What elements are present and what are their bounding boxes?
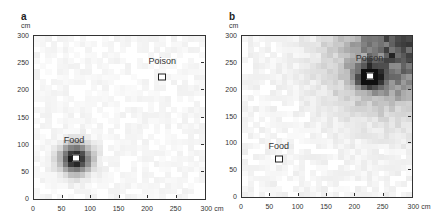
tick-mark (354, 193, 355, 196)
heatmap-cell (199, 63, 205, 69)
heatmap-cell (248, 95, 254, 101)
heatmap-cell (142, 123, 148, 129)
heatmap-cell (114, 161, 120, 167)
heatmap-cell (45, 112, 51, 118)
tick-mark (201, 62, 204, 63)
heatmap-cell (406, 90, 412, 96)
x-tick-label: 0 (239, 203, 243, 210)
heatmap-cell (114, 74, 120, 80)
y-tick-label: 300 (9, 32, 29, 39)
heatmap-cell (406, 68, 412, 74)
heatmap-cell (406, 106, 412, 112)
heatmap-cell (125, 63, 131, 69)
heatmap-cell (199, 128, 205, 134)
x-tick-label: 300 cm (201, 205, 224, 212)
heatmap-cell (177, 96, 183, 102)
heatmap-cell (188, 188, 194, 194)
heatmap-cell (199, 74, 205, 80)
heatmap-cell (282, 192, 288, 198)
tick-mark (201, 144, 204, 145)
heatmap-cell (108, 172, 114, 178)
heatmap-cell (159, 194, 165, 200)
heatmap-cell (165, 96, 171, 102)
heatmap-cell (199, 52, 205, 58)
x-tick-label: 100 (84, 205, 96, 212)
heatmap-cell (406, 41, 412, 47)
y-tick-label: 150 (217, 112, 237, 119)
heatmap-cell (406, 192, 412, 198)
heatmap-cell (199, 134, 205, 140)
heatmap-cell (253, 143, 259, 149)
heatmap-cell (248, 181, 254, 187)
heatmap-cell (148, 101, 154, 107)
y-tick-label: 100 (217, 139, 237, 146)
tick-mark (62, 195, 63, 198)
x-tick-label: 150 (320, 203, 332, 210)
y-tick-label: 50 (9, 167, 29, 174)
heatmap-cell (242, 149, 248, 155)
heatmap-cell (159, 85, 165, 91)
heatmap-cell (406, 133, 412, 139)
heatmap-cell (406, 122, 412, 128)
heatmap-cell (199, 36, 205, 42)
x-tick-label: 0 (31, 205, 35, 212)
heatmap-cell (182, 194, 188, 200)
heatmap-cell (91, 188, 97, 194)
heatmap-cell (120, 47, 126, 53)
heatmap-cell (384, 176, 390, 182)
location-marker-icon (275, 156, 283, 163)
tick-mark (408, 169, 411, 170)
heatmap-cell (406, 176, 412, 182)
heatmap-cell (259, 192, 265, 198)
heatmap-cell (63, 69, 69, 75)
panel-label: a (21, 11, 27, 22)
y-unit-label: cm (229, 22, 238, 29)
heatmap-cell (108, 41, 114, 47)
y-tick-label: 100 (9, 140, 29, 147)
heatmap-cell (299, 165, 305, 171)
heatmap-cell (259, 79, 265, 85)
x-tick-label: 100 (292, 203, 304, 210)
heatmap-cell (199, 41, 205, 47)
heatmap-cell (406, 79, 412, 85)
x-tick-label: 200 (141, 205, 153, 212)
heatmap-cell (199, 79, 205, 85)
location-marker-icon (158, 73, 166, 80)
tick-mark (119, 195, 120, 198)
heatmap-cell (199, 150, 205, 156)
heatmap-cell (199, 177, 205, 183)
heatmap-cell (406, 127, 412, 133)
heatmap-cell (406, 63, 412, 69)
heatmap-cell (406, 154, 412, 160)
heatmap-cell (114, 123, 120, 129)
heatmap-cell (97, 123, 103, 129)
heatmap-cell (102, 85, 108, 91)
heatmap-cell (85, 107, 91, 113)
annotation-label: Poison (148, 56, 176, 66)
heatmap-cell (265, 41, 271, 47)
heatmap-cell (68, 194, 74, 200)
heatmap-cell (299, 111, 305, 117)
y-tick-label: 200 (217, 85, 237, 92)
heatmap-cell (120, 112, 126, 118)
heatmap-cell (182, 172, 188, 178)
heatmap-cell (299, 159, 305, 165)
heatmap-cell (372, 181, 378, 187)
heatmap-cell (114, 156, 120, 162)
y-tick-label: 150 (9, 113, 29, 120)
heatmap-cell (276, 176, 282, 182)
heatmap-cell (389, 186, 395, 192)
x-tick-label: 50 (58, 205, 66, 212)
heatmap-cell (389, 192, 395, 198)
plot-area-b: FoodPoison (241, 35, 413, 198)
heatmap-cell (199, 161, 205, 167)
heatmap-cell (287, 100, 293, 106)
heatmap-cell (131, 172, 137, 178)
heatmap-cell (177, 52, 183, 58)
annotation-label: Food (64, 135, 85, 145)
tick-mark (90, 195, 91, 198)
heatmap-cell (406, 47, 412, 53)
location-marker-icon (72, 155, 80, 162)
x-tick-label: 300 cm (408, 203, 431, 210)
heatmap-cell (199, 123, 205, 129)
